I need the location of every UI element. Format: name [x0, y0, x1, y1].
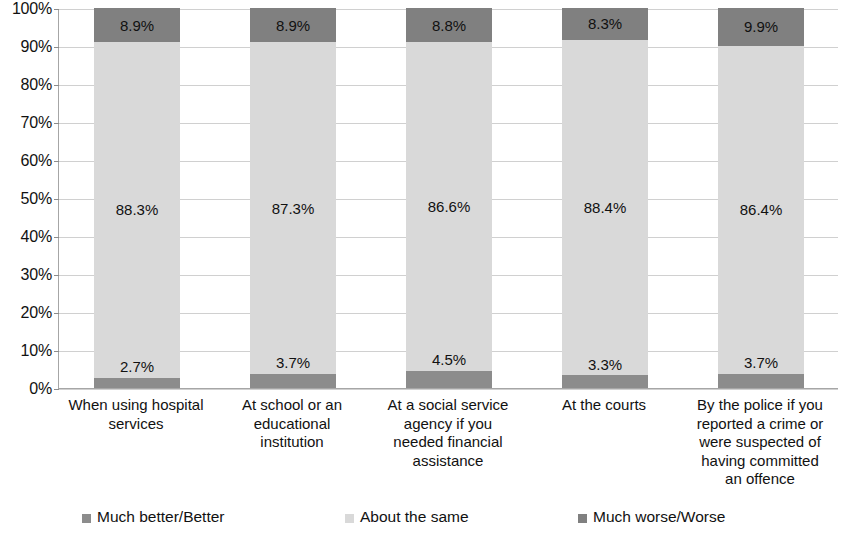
bar-segment-data-label: 87.3%: [250, 201, 336, 216]
x-axis-category-label: At a social serviceagency if youneeded f…: [370, 396, 526, 470]
y-axis-tick-label: 50%: [2, 191, 52, 207]
category-label-line: assistance: [374, 452, 522, 471]
category-label-line: institution: [218, 433, 366, 452]
bar-segment-data-label: 8.8%: [406, 18, 492, 33]
category-label-line: services: [62, 415, 210, 434]
stacked-bar-chart: 100%90%80%70%60%50%40%30%20%10%0% 2.7%88…: [0, 0, 842, 538]
category-label-line: were suspected of: [686, 433, 834, 452]
bar-segment-data-label: 3.3%: [562, 357, 648, 372]
bar-segment-data-label: 8.3%: [562, 16, 648, 31]
category-label-line: When using hospital: [62, 396, 210, 415]
bar-segment-data-label: 8.9%: [94, 18, 180, 33]
bar-slot: 3.7%87.3%8.9%: [215, 9, 371, 388]
y-axis-tick-label: 10%: [2, 343, 52, 359]
bar-slot: 2.7%88.3%8.9%: [59, 9, 215, 388]
bar-slot: 3.3%88.4%8.3%: [527, 9, 683, 388]
category-label-line: At the courts: [530, 396, 678, 415]
bar-segment-data-label: 88.3%: [94, 202, 180, 217]
legend-item[interactable]: About the same: [345, 508, 469, 526]
y-axis-tick-label: 60%: [2, 153, 52, 169]
stacked-bar[interactable]: 3.7%86.4%9.9%: [718, 9, 804, 388]
stacked-bar[interactable]: 3.3%88.4%8.3%: [562, 9, 648, 388]
y-axis-tick-label: 30%: [2, 267, 52, 283]
legend-item[interactable]: Much better/Better: [82, 508, 225, 526]
bar-segment-data-label: 2.7%: [94, 359, 180, 374]
bar-segment-data-label: 4.5%: [406, 352, 492, 367]
category-label-line: needed financial: [374, 433, 522, 452]
y-axis-tick-label: 40%: [2, 229, 52, 245]
y-axis-tick-label: 80%: [2, 77, 52, 93]
category-label-line: an offence: [686, 470, 834, 489]
category-label-line: At a social service: [374, 396, 522, 415]
legend-item[interactable]: Much worse/Worse: [578, 508, 725, 526]
legend-square-icon: [345, 514, 354, 523]
category-label-line: agency if you: [374, 415, 522, 434]
category-label-line: educational: [218, 415, 366, 434]
gridline: [59, 389, 838, 390]
bar-segment[interactable]: [250, 374, 336, 388]
bar-segment-data-label: 9.9%: [718, 19, 804, 34]
y-axis-tick-label: 70%: [2, 115, 52, 131]
category-label-line: reported a crime or: [686, 415, 834, 434]
y-axis: 100%90%80%70%60%50%40%30%20%10%0%: [0, 9, 52, 389]
legend-item-label: Much worse/Worse: [593, 508, 725, 526]
y-axis-tickmark: [54, 389, 59, 390]
bar-slot: 3.7%86.4%9.9%: [683, 9, 839, 388]
bar-segment-data-label: 3.7%: [718, 355, 804, 370]
plot-area: 2.7%88.3%8.9%3.7%87.3%8.9%4.5%86.6%8.8%3…: [58, 9, 838, 389]
bar-segment[interactable]: [406, 371, 492, 388]
y-axis-tick-label: 90%: [2, 39, 52, 55]
chart-legend: Much better/BetterAbout the sameMuch wor…: [0, 508, 842, 534]
category-label-line: having committed: [686, 452, 834, 471]
stacked-bar[interactable]: 2.7%88.3%8.9%: [94, 9, 180, 388]
x-axis-category-label: At the courts: [526, 396, 682, 415]
legend-item-label: Much better/Better: [97, 508, 225, 526]
y-axis-tick-label: 20%: [2, 305, 52, 321]
bar-slot: 4.5%86.6%8.8%: [371, 9, 527, 388]
x-axis-category-label: At school or aneducationalinstitution: [214, 396, 370, 452]
stacked-bar[interactable]: 3.7%87.3%8.9%: [250, 9, 336, 388]
x-axis-category-label: When using hospitalservices: [58, 396, 214, 433]
bar-segment[interactable]: [562, 375, 648, 388]
bar-segment-data-label: 3.7%: [250, 355, 336, 370]
x-axis-category-label: By the police if youreported a crime orw…: [682, 396, 838, 489]
legend-item-label: About the same: [360, 508, 469, 526]
bar-segment-data-label: 86.4%: [718, 202, 804, 217]
category-label-line: At school or an: [218, 396, 366, 415]
category-label-line: By the police if you: [686, 396, 834, 415]
y-axis-tick-label: 100%: [2, 1, 52, 17]
x-axis-category-labels: When using hospitalservicesAt school or …: [58, 396, 838, 504]
bar-segment[interactable]: [718, 374, 804, 388]
legend-square-icon: [82, 514, 91, 523]
stacked-bar[interactable]: 4.5%86.6%8.8%: [406, 9, 492, 388]
y-axis-tick-label: 0%: [2, 381, 52, 397]
bar-segment-data-label: 86.6%: [406, 199, 492, 214]
bar-segment[interactable]: [94, 378, 180, 388]
legend-square-icon: [578, 514, 587, 523]
bar-segment-data-label: 8.9%: [250, 18, 336, 33]
bar-segment-data-label: 88.4%: [562, 200, 648, 215]
